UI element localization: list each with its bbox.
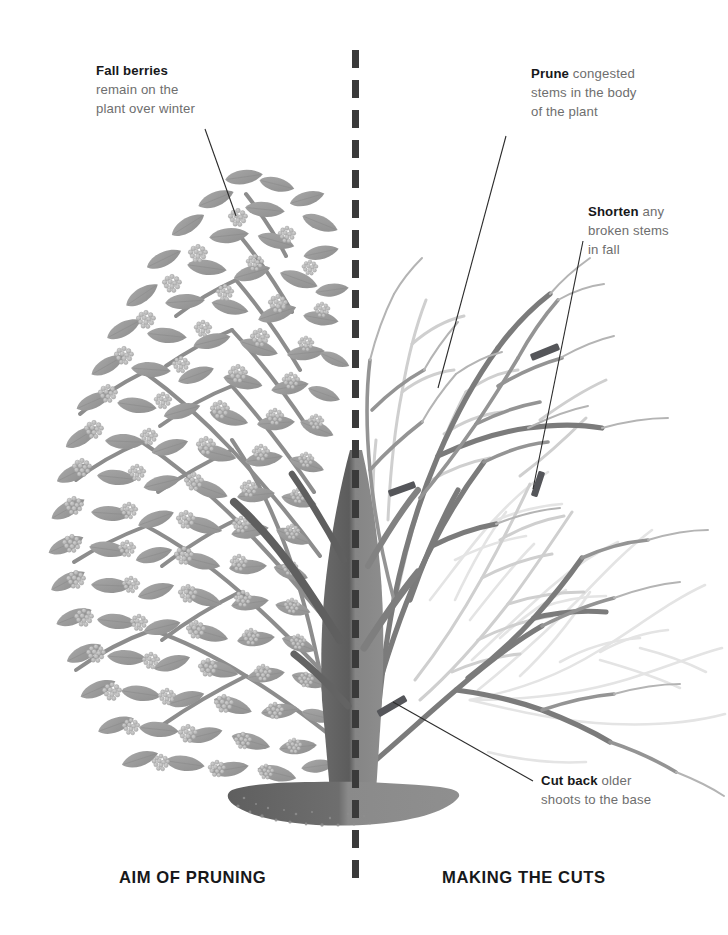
bare-shrub-right [367, 258, 725, 796]
annotation-prune-bold: Prune [531, 66, 569, 81]
center-dashed-divider [352, 50, 359, 886]
caption-aim-of-pruning: AIM OF PRUNING [119, 868, 266, 888]
annotation-cut-back: Cut back older shoots to the base [541, 772, 651, 810]
annotation-fall-berries-bold: Fall berries [96, 63, 168, 78]
soil-mound [228, 782, 459, 827]
leafy-shrub-left [46, 167, 352, 790]
annotation-prune: Prune congested stems in the body of the… [531, 65, 637, 121]
annotation-cut-back-bold: Cut back [541, 773, 598, 788]
caption-making-the-cuts: MAKING THE CUTS [442, 868, 606, 888]
leader-cut-back [393, 702, 533, 781]
annotation-fall-berries-text: remain on the plant over winter [96, 82, 195, 116]
illustration-canvas: Fall berriesremain on the plant over win… [0, 0, 728, 935]
annotation-fall-berries: Fall berriesremain on the plant over win… [96, 62, 195, 118]
annotation-shorten: Shorten any broken stems in fall [588, 203, 669, 259]
annotation-shorten-bold: Shorten [588, 204, 639, 219]
ghost-stems [430, 472, 725, 763]
